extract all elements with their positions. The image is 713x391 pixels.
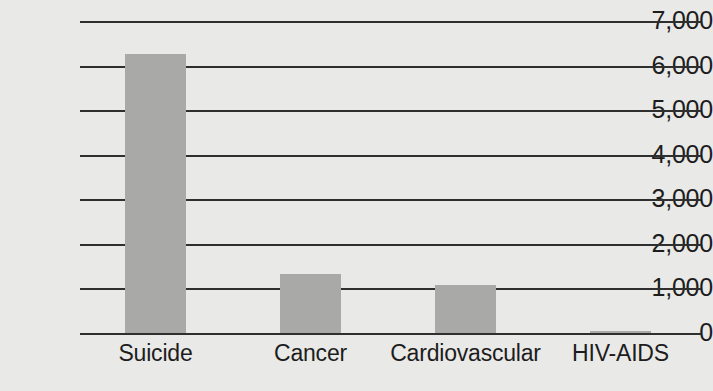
bar-suicide: [125, 54, 186, 333]
chart-title: [0, 0, 713, 8]
bar-cardiovascular: [435, 285, 496, 333]
bar-chart: 7,0006,0005,0004,0003,0002,0001,0000 Sui…: [0, 0, 713, 391]
gridline: [80, 333, 701, 335]
gridline: [80, 21, 701, 23]
x-axis-tick-label: HIV-AIDS: [511, 340, 713, 366]
bar-hiv-aids: [590, 331, 651, 333]
plot-area: [80, 21, 701, 333]
bar-cancer: [280, 274, 341, 333]
